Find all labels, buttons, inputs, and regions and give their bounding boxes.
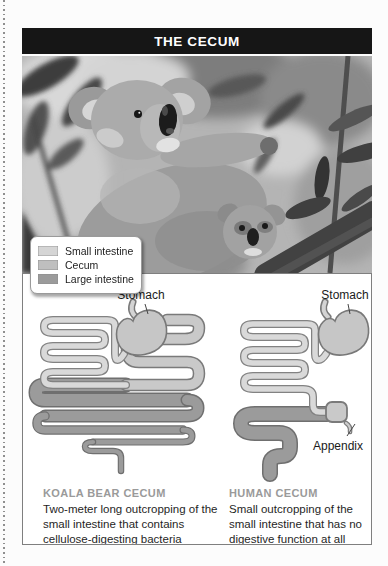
legend-label: Small intestine	[65, 245, 133, 257]
cecum-figure: THE CECUM	[22, 28, 372, 545]
koala-paw	[260, 137, 278, 155]
cecum-swatch	[38, 260, 58, 270]
book-page: { "title": "THE CECUM", "photo": { "desc…	[0, 0, 388, 566]
koala-stomach	[117, 310, 167, 355]
legend-label: Cecum	[65, 259, 98, 271]
page-edge-perforation	[3, 0, 5, 566]
human-cecum-pouch	[326, 402, 347, 422]
legend-item-large-intestine: Large intestine	[38, 273, 135, 285]
figure-title: THE CECUM	[154, 34, 240, 49]
koala-caption: KOALA BEAR CECUM Two-meter long outcropp…	[43, 487, 229, 545]
human-stomach-label: Stomach	[321, 288, 368, 302]
small-intestine-swatch	[38, 246, 58, 256]
legend-item-small-intestine: Small intestine	[38, 245, 135, 257]
human-caption-title: HUMAN CECUM	[229, 487, 372, 499]
legend: Small intestine Cecum Large intestine	[30, 236, 142, 294]
koala-caption-body: Two-meter long outcropping of the small …	[43, 502, 229, 545]
legend-item-cecum: Cecum	[38, 259, 135, 271]
koala-caption-title: KOALA BEAR CECUM	[43, 487, 229, 499]
large-intestine-swatch	[38, 274, 58, 284]
appendix-label: Appendix	[313, 439, 363, 453]
diagram-panel: Stomach Stoma	[22, 273, 372, 545]
koala-eye	[134, 110, 142, 118]
human-tract: Stomach Appendix	[241, 288, 369, 474]
koala-tract: Stomach	[36, 288, 199, 471]
human-caption-body: Small outcropping of the small intestine…	[229, 502, 372, 545]
legend-label: Large intestine	[65, 273, 134, 285]
figure-title-bar: THE CECUM	[22, 28, 372, 54]
human-caption: HUMAN CECUM Small outcropping of the sma…	[229, 487, 372, 545]
joey-nose	[247, 228, 259, 246]
